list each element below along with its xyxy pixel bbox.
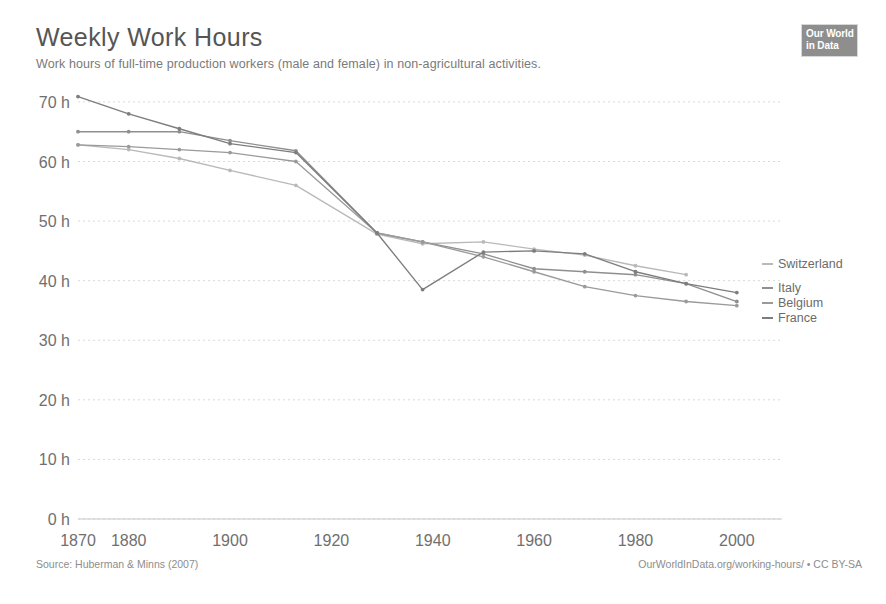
data-point[interactable] bbox=[482, 255, 486, 259]
x-tick-label: 1880 bbox=[111, 532, 147, 549]
chart-legend: SwitzerlandItalyBelgiumFrance bbox=[686, 257, 843, 325]
data-point[interactable] bbox=[684, 282, 688, 286]
y-tick-label: 0 h bbox=[48, 511, 70, 528]
license-text[interactable]: OurWorldInData.org/working-hours/ • CC B… bbox=[638, 558, 862, 570]
data-point[interactable] bbox=[421, 288, 425, 292]
x-tick-label: 1870 bbox=[60, 532, 96, 549]
data-point[interactable] bbox=[127, 130, 131, 134]
data-point[interactable] bbox=[684, 300, 688, 304]
series-line-italy[interactable] bbox=[78, 132, 737, 302]
series-line-france[interactable] bbox=[78, 97, 737, 293]
line-chart-plot: 0 h10 h20 h30 h40 h50 h60 h70 h 18701880… bbox=[0, 0, 886, 604]
data-point[interactable] bbox=[177, 127, 181, 131]
legend-label-italy[interactable]: Italy bbox=[778, 281, 802, 295]
data-point[interactable] bbox=[583, 252, 587, 256]
y-tick-label: 40 h bbox=[39, 273, 70, 290]
x-tick-label: 2000 bbox=[719, 532, 755, 549]
data-point[interactable] bbox=[375, 231, 379, 235]
legend-label-france[interactable]: France bbox=[778, 311, 817, 325]
x-tick-label: 1960 bbox=[516, 532, 552, 549]
data-point[interactable] bbox=[421, 240, 425, 244]
x-tick-label: 1900 bbox=[212, 532, 248, 549]
series-group bbox=[76, 95, 739, 308]
data-point[interactable] bbox=[127, 145, 131, 149]
y-tick-label: 50 h bbox=[39, 213, 70, 230]
y-tick-label: 10 h bbox=[39, 451, 70, 468]
x-tick-label: 1980 bbox=[618, 532, 654, 549]
data-point[interactable] bbox=[76, 130, 80, 134]
gridlines-group bbox=[78, 102, 782, 519]
data-point[interactable] bbox=[634, 270, 638, 274]
series-line-belgium[interactable] bbox=[78, 145, 737, 306]
x-axis-tick-labels: 18701880190019201940196019802000 bbox=[60, 532, 754, 549]
y-tick-label: 20 h bbox=[39, 392, 70, 409]
data-point[interactable] bbox=[532, 270, 536, 274]
data-point[interactable] bbox=[294, 151, 298, 155]
data-point[interactable] bbox=[228, 142, 232, 146]
y-axis-tick-labels: 0 h10 h20 h30 h40 h50 h60 h70 h bbox=[39, 94, 70, 528]
data-point[interactable] bbox=[532, 249, 536, 253]
y-tick-label: 70 h bbox=[39, 94, 70, 111]
y-tick-label: 30 h bbox=[39, 332, 70, 349]
data-point[interactable] bbox=[177, 148, 181, 152]
legend-label-switzerland[interactable]: Switzerland bbox=[778, 257, 843, 271]
x-tick-label: 1940 bbox=[415, 532, 451, 549]
y-tick-label: 60 h bbox=[39, 154, 70, 171]
data-point[interactable] bbox=[634, 264, 638, 268]
chart-container: Weekly Work Hours Work hours of full-tim… bbox=[0, 0, 886, 604]
data-point[interactable] bbox=[127, 112, 131, 116]
legend-label-belgium[interactable]: Belgium bbox=[778, 296, 823, 310]
data-point[interactable] bbox=[482, 240, 486, 244]
data-point[interactable] bbox=[482, 250, 486, 254]
data-point[interactable] bbox=[228, 169, 232, 173]
data-point[interactable] bbox=[228, 151, 232, 155]
data-point[interactable] bbox=[294, 160, 298, 164]
data-point[interactable] bbox=[76, 95, 80, 99]
chart-footer: Source: Huberman & Minns (2007) OurWorld… bbox=[36, 558, 862, 574]
source-text: Source: Huberman & Minns (2007) bbox=[36, 558, 198, 570]
data-point[interactable] bbox=[294, 183, 298, 187]
data-point[interactable] bbox=[634, 294, 638, 298]
data-point[interactable] bbox=[76, 143, 80, 147]
data-point[interactable] bbox=[583, 270, 587, 274]
x-tick-label: 1920 bbox=[314, 532, 350, 549]
data-point[interactable] bbox=[583, 285, 587, 289]
data-point[interactable] bbox=[177, 157, 181, 161]
series-line-switzerland[interactable] bbox=[78, 145, 686, 275]
